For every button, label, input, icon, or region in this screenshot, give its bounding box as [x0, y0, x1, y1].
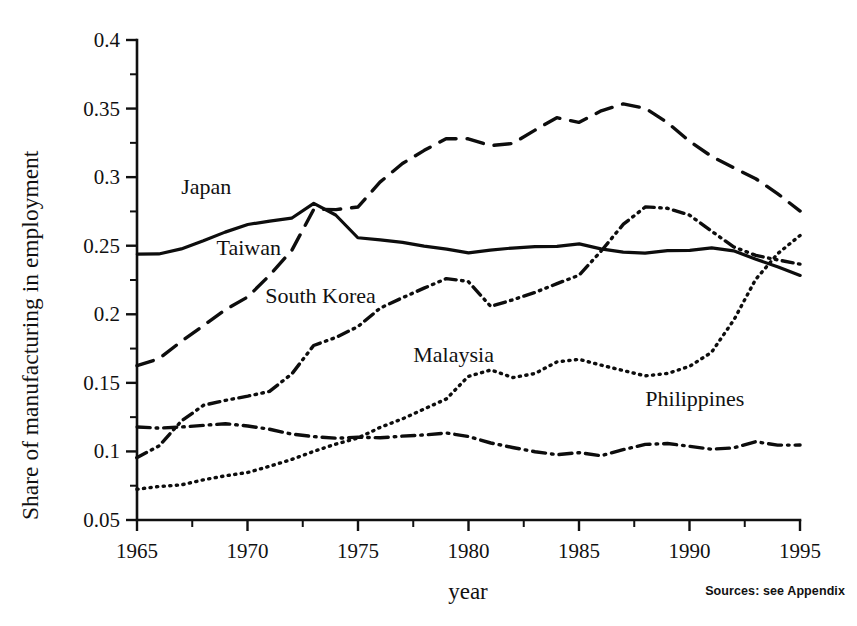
source-note: Sources: see Appendix [705, 584, 845, 598]
y-tick-label: 0.4 [94, 28, 121, 52]
x-tick-label: 1995 [779, 539, 821, 563]
y-tick-label: 0.25 [83, 234, 120, 258]
series-label-malaysia: Malaysia [413, 342, 494, 367]
y-axis-tick-labels: 0.050.10.150.20.250.30.350.4 [83, 28, 120, 532]
y-axis-ticks [126, 40, 137, 520]
series-label-philippines: Philippines [645, 386, 744, 411]
chart-figure: Share of manufacturing in employment 0.0… [0, 0, 857, 626]
y-tick-label: 0.3 [94, 165, 120, 189]
x-tick-label: 1975 [337, 539, 379, 563]
x-tick-label: 1985 [558, 539, 600, 563]
y-tick-label: 0.15 [83, 371, 120, 395]
x-tick-label: 1965 [116, 539, 158, 563]
x-axis-tick-labels: 1965197019751980198519901995 [116, 539, 821, 563]
x-tick-label: 1980 [448, 539, 490, 563]
y-tick-label: 0.05 [83, 508, 120, 532]
series-label-japan: Japan [181, 174, 231, 199]
y-tick-label: 0.35 [83, 97, 120, 121]
x-tick-label: 1970 [227, 539, 269, 563]
line-chart-svg: Share of manufacturing in employment 0.0… [0, 0, 857, 626]
series-line-philippines [137, 424, 800, 456]
x-axis-title: year [448, 579, 488, 604]
y-tick-label: 0.1 [94, 439, 120, 463]
y-tick-label: 0.2 [94, 302, 120, 326]
data-series-group [137, 104, 801, 489]
x-tick-label: 1990 [669, 539, 711, 563]
x-axis-ticks [137, 520, 800, 531]
series-label-taiwan: Taiwan [217, 235, 281, 260]
y-axis-title: Share of manufacturing in employment [17, 150, 43, 520]
series-label-south-korea: South Korea [265, 283, 376, 308]
